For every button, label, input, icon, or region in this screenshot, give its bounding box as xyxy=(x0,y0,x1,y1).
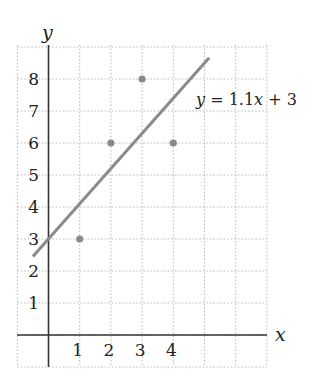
data-points xyxy=(76,75,177,242)
x-tick-label: 1 xyxy=(72,340,83,360)
y-tick-label: 7 xyxy=(28,101,39,121)
data-point xyxy=(139,75,146,82)
y-tick-label: 6 xyxy=(28,133,39,153)
y-tick-label: 8 xyxy=(28,69,39,89)
equation-var: x xyxy=(254,90,263,109)
y-tick-label: 5 xyxy=(28,165,39,185)
x-axis-label: x xyxy=(275,323,286,345)
regression-line xyxy=(33,58,209,257)
data-point xyxy=(170,139,177,146)
data-point xyxy=(107,139,114,146)
x-tick-label: 2 xyxy=(103,340,114,360)
y-tick-label: 2 xyxy=(28,261,39,281)
equation-coef: = 1.1 xyxy=(205,90,254,109)
x-tick-label: 4 xyxy=(166,340,177,360)
data-point xyxy=(76,235,83,242)
equation-annotation: y = 1.1x + 3 xyxy=(195,90,297,109)
y-tick-labels: 12345678 xyxy=(28,69,39,313)
y-axis-label: y xyxy=(41,21,53,43)
x-tick-label: 3 xyxy=(135,340,146,360)
y-tick-label: 1 xyxy=(28,293,39,313)
equation-rest: + 3 xyxy=(263,90,297,109)
y-tick-label: 3 xyxy=(28,229,39,249)
y-tick-label: 4 xyxy=(28,197,39,217)
scatter-plot-with-regression-line: 1234 12345678 x y y = 1.1x + 3 xyxy=(0,0,317,377)
x-tick-labels: 1234 xyxy=(72,340,176,360)
